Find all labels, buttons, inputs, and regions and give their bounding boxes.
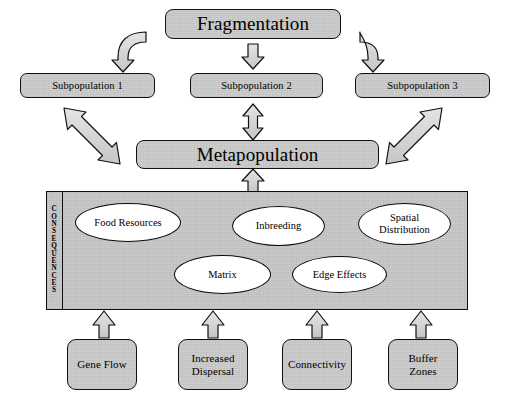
arrow-fragmentation-to-subpopulation-2 <box>242 44 264 69</box>
node-matrix-label: Matrix <box>208 269 237 281</box>
arrow-connectivity-to-consequences <box>306 311 328 338</box>
arrow-fragmentation-to-subpopulation-1 <box>112 32 146 72</box>
node-metapopulation-label: Metapopulation <box>197 144 319 165</box>
node-gene-flow[interactable]: Gene Flow <box>67 339 137 390</box>
node-fragmentation-label: Fragmentation <box>197 13 309 34</box>
node-food-resources-label: Food Resources <box>94 217 161 229</box>
node-connectivity-label: Connectivity <box>288 358 346 370</box>
node-metapopulation[interactable]: Metapopulation <box>136 140 379 169</box>
node-increased-dispersal-label: Increased Dispersal <box>191 352 234 377</box>
arrow-fragmentation-to-subpopulation-3 <box>360 32 384 72</box>
arrow-gene-flow-to-consequences <box>93 311 115 338</box>
node-increased-dispersal[interactable]: Increased Dispersal <box>178 339 248 390</box>
arrow-increased-dispersal-to-consequences <box>202 311 224 338</box>
node-food-resources[interactable]: Food Resources <box>75 203 181 242</box>
arrow-subpopulation-2-metapopulation <box>243 104 263 140</box>
node-subpopulation-1[interactable]: Subpopulation 1 <box>20 73 155 98</box>
node-subpopulation-2[interactable]: Subpopulation 2 <box>190 73 323 98</box>
node-fragmentation[interactable]: Fragmentation <box>165 9 341 39</box>
consequences-sidebar: C O N S E Q U E N C E S <box>46 191 63 310</box>
node-edge-effects[interactable]: Edge Effects <box>292 256 387 293</box>
node-subpopulation-2-label: Subpopulation 2 <box>221 80 292 92</box>
node-connectivity[interactable]: Connectivity <box>282 339 352 390</box>
node-buffer-zones-label: Buffer Zones <box>408 352 437 377</box>
node-subpopulation-3[interactable]: Subpopulation 3 <box>355 73 490 98</box>
node-edge-effects-label: Edge Effects <box>313 269 367 281</box>
consequences-sidebar-label: C O N S E Q U E N C E S <box>51 206 57 294</box>
node-buffer-zones[interactable]: Buffer Zones <box>388 339 458 390</box>
arrow-subpopulation-1-metapopulation <box>64 108 120 164</box>
node-inbreeding-label: Inbreeding <box>256 220 301 232</box>
node-subpopulation-3-label: Subpopulation 3 <box>387 80 458 92</box>
arrow-consequences-to-metapopulation <box>242 169 264 192</box>
node-spatial-distribution[interactable]: Spatial Distribution <box>358 203 451 245</box>
node-inbreeding[interactable]: Inbreeding <box>232 206 325 246</box>
node-gene-flow-label: Gene Flow <box>77 358 126 370</box>
node-spatial-distribution-label: Spatial Distribution <box>379 212 430 236</box>
node-subpopulation-1-label: Subpopulation 1 <box>52 80 123 92</box>
node-matrix[interactable]: Matrix <box>174 255 271 294</box>
arrow-subpopulation-3-metapopulation <box>386 108 442 164</box>
diagram-canvas: Fragmentation Subpopulation 1 Subpopulat… <box>0 0 506 400</box>
arrow-buffer-zones-to-consequences <box>410 311 432 338</box>
